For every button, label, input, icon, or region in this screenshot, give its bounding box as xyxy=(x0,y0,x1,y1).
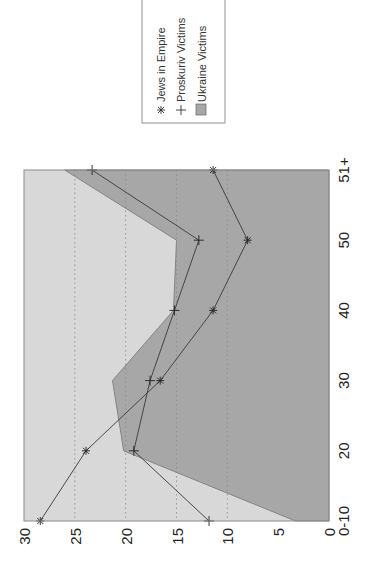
asterisk-marker xyxy=(209,306,217,314)
value-tick-label: 15 xyxy=(169,528,186,545)
legend: Jews in Empire Proskuriv Victims Ukraine… xyxy=(142,0,225,123)
value-tick-label: 20 xyxy=(118,528,135,545)
asterisk-marker xyxy=(244,236,252,244)
value-tick-label: 5 xyxy=(270,528,287,536)
legend-label-ukraine: Ukraine Victims xyxy=(196,25,208,102)
legend-label-jews: Jews in Empire xyxy=(155,27,167,102)
legend-item-ukraine: Ukraine Victims xyxy=(196,25,208,115)
category-tick-label: 50 xyxy=(335,232,352,249)
category-tick-label: 20 xyxy=(335,442,352,459)
value-tick-label: 10 xyxy=(219,528,236,545)
legend-item-jews: Jews in Empire xyxy=(155,27,167,114)
category-tick-label: 0-10 xyxy=(335,506,352,536)
value-tick-label: 25 xyxy=(67,528,84,545)
category-axis: 0-102030405051+ xyxy=(335,157,352,536)
filled-square-icon xyxy=(196,104,206,115)
chart-canvas: 051015202530 0-102030405051+ Jews in Emp… xyxy=(0,0,366,572)
legend-item-proskuriv: Proskuriv Victims xyxy=(175,17,187,115)
asterisk-marker xyxy=(156,377,164,385)
legend-label-proskuriv: Proskuriv Victims xyxy=(175,17,187,102)
asterisk-marker xyxy=(82,447,90,455)
category-tick-label: 40 xyxy=(335,302,352,319)
value-tick-label: 30 xyxy=(16,528,33,545)
category-tick-label: 30 xyxy=(335,372,352,389)
asterisk-icon xyxy=(157,106,165,114)
category-tick-label: 51+ xyxy=(335,157,352,183)
value-axis: 051015202530 xyxy=(16,528,338,545)
